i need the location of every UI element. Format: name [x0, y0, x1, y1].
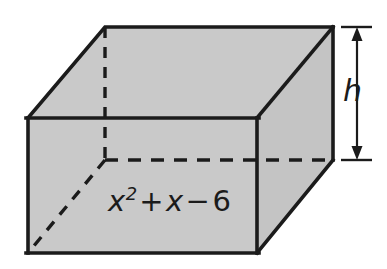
height-label: h [343, 73, 362, 108]
expression-plus-operator: + [137, 184, 166, 218]
prism-drawing [0, 0, 387, 269]
height-arrowhead-up [352, 27, 363, 41]
base-area-expression: x2+x−6 [108, 184, 231, 218]
expression-exponent: 2 [126, 183, 137, 204]
expression-second-term: x [166, 184, 184, 218]
expression-minus-operator: − [184, 184, 213, 218]
expression-constant: 6 [212, 184, 231, 218]
height-arrowhead-down [352, 146, 363, 160]
prism-figure: x2+x−6 h [0, 0, 387, 269]
expression-base-variable: x [108, 184, 126, 218]
